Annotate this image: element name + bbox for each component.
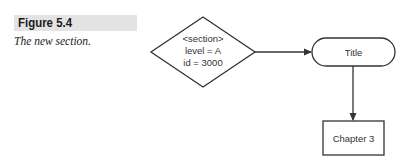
- rectangle-label: Chapter 3: [333, 133, 375, 144]
- diamond-line-1: <section>: [182, 33, 224, 44]
- node-section-diamond: <section> level = A id = 3000: [151, 17, 255, 87]
- flowchart: <section> level = A id = 3000 Title Chap…: [0, 0, 409, 160]
- diamond-line-2: level = A: [185, 45, 222, 56]
- node-chapter3-rectangle: Chapter 3: [323, 121, 384, 155]
- terminal-label: Title: [345, 47, 363, 58]
- diamond-line-3: id = 3000: [183, 57, 222, 68]
- node-title-terminal: Title: [312, 38, 395, 66]
